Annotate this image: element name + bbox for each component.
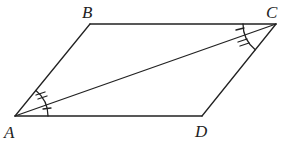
angle-arc-c: [243, 24, 255, 50]
parallelogram-diagram: B C A D: [0, 0, 282, 153]
vertex-label-b: B: [82, 4, 92, 21]
vertex-label-c: C: [266, 4, 277, 21]
side-cd: [202, 24, 276, 116]
diagram-figure: [0, 0, 282, 153]
angle-tick-a-3: [43, 108, 51, 109]
angle-tick-c-2: [238, 39, 247, 42]
vertex-label-d: D: [195, 123, 207, 140]
diagonal-ac: [15, 24, 276, 116]
vertex-label-a: A: [4, 124, 14, 141]
angle-tick-c-3: [240, 43, 249, 46]
